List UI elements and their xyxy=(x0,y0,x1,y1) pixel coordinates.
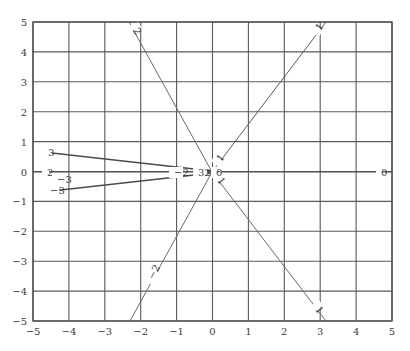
contour-line-chart: 11112−23−32−3−23200 −5−4−3−2−1012345 −5−… xyxy=(0,0,410,351)
x-tick-label: 3 xyxy=(317,326,323,337)
x-tick-label: 1 xyxy=(245,326,251,337)
x-tick-label: −4 xyxy=(62,326,77,337)
x-tick-label: −2 xyxy=(133,326,148,337)
contour-level-label: −3 xyxy=(50,185,65,196)
x-tick-label: 0 xyxy=(209,326,215,337)
y-tick-label: −3 xyxy=(12,256,27,267)
contour-level-label: −3 xyxy=(57,174,72,185)
contour-level-label: 0 xyxy=(381,167,387,178)
x-tick-label: 4 xyxy=(353,326,359,337)
y-tick-label: −1 xyxy=(12,196,27,207)
x-tick-label: 5 xyxy=(389,326,395,337)
y-tick-label: 5 xyxy=(21,17,27,28)
y-tick-label: 4 xyxy=(21,47,27,58)
contour-level-label: 3 xyxy=(48,147,54,158)
y-tick-label: 3 xyxy=(21,77,27,88)
contour-level-label: 32 xyxy=(198,167,211,178)
y-tick-label: 2 xyxy=(21,107,27,118)
y-tick-label: −4 xyxy=(12,286,27,297)
x-tick-label: −3 xyxy=(97,326,112,337)
x-tick-label: −1 xyxy=(169,326,184,337)
y-tick-label: −2 xyxy=(12,226,27,237)
contour-level-label: −2 xyxy=(174,167,189,178)
contour-level-label: 0 xyxy=(216,167,222,178)
y-tick-label: 1 xyxy=(21,137,27,148)
y-tick-label: −5 xyxy=(12,316,27,327)
x-tick-label: −5 xyxy=(26,326,41,337)
y-tick-label: 0 xyxy=(21,167,27,178)
x-tick-label: 2 xyxy=(281,326,287,337)
